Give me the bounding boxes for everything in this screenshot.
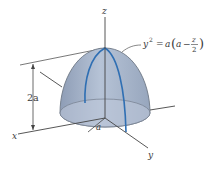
svg-text:): ) bbox=[199, 36, 204, 51]
svg-text:a: a bbox=[176, 39, 181, 49]
equation-leader bbox=[122, 45, 141, 52]
paraboloid-diagram: z x y 2a a y 2 = a ( a − z 2 ) bbox=[0, 0, 219, 176]
z-axis-label: z bbox=[101, 6, 107, 16]
svg-text:2: 2 bbox=[192, 46, 196, 54]
svg-text:y: y bbox=[142, 39, 149, 49]
height-label: 2a bbox=[27, 92, 39, 103]
diagram-canvas: z x y 2a a y 2 = a ( a − z 2 ) bbox=[0, 0, 219, 176]
dimension-arrow-bottom bbox=[31, 125, 35, 130]
radius-label: a bbox=[96, 122, 101, 132]
svg-text:2: 2 bbox=[149, 36, 153, 43]
equation-label: y 2 = a ( a − z 2 ) bbox=[142, 36, 204, 54]
svg-text:=: = bbox=[156, 39, 164, 49]
x-axis-label: x bbox=[12, 131, 17, 141]
svg-text:a: a bbox=[165, 39, 170, 49]
svg-text:z: z bbox=[191, 36, 196, 44]
dimension-arrow-top bbox=[31, 64, 35, 69]
y-axis-label: y bbox=[147, 150, 154, 160]
svg-text:−: − bbox=[183, 39, 191, 49]
x-axis-positive-far bbox=[150, 106, 175, 110]
y-axis-back bbox=[40, 72, 62, 87]
